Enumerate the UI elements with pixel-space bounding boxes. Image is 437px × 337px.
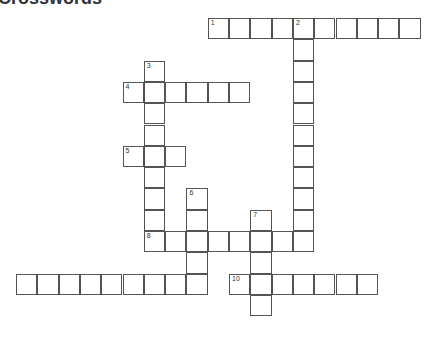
clue-number: 10 xyxy=(232,275,240,282)
crossword-cell[interactable]: 10 xyxy=(229,274,250,295)
crossword-cell[interactable] xyxy=(293,231,314,252)
crossword-cell[interactable] xyxy=(165,231,186,252)
crossword-cell[interactable] xyxy=(186,252,207,273)
crossword-cell[interactable] xyxy=(250,295,271,316)
crossword-cell[interactable] xyxy=(293,167,314,188)
clue-number: 2 xyxy=(296,19,300,26)
crossword-cell[interactable] xyxy=(144,146,165,167)
crossword-cell[interactable] xyxy=(144,210,165,231)
crossword-cell[interactable] xyxy=(144,188,165,209)
crossword-cell[interactable] xyxy=(293,103,314,124)
crossword-cell[interactable] xyxy=(229,82,250,103)
crossword-cell[interactable] xyxy=(59,274,80,295)
crossword-cell[interactable] xyxy=(357,18,378,39)
crossword-cell[interactable] xyxy=(293,39,314,60)
crossword-cell[interactable] xyxy=(186,82,207,103)
crossword-cell[interactable] xyxy=(293,188,314,209)
crossword-cell[interactable]: 5 xyxy=(123,146,144,167)
crossword-cell[interactable]: 8 xyxy=(144,231,165,252)
page-title: Crosswords xyxy=(0,0,102,9)
crossword-cell[interactable] xyxy=(229,18,250,39)
crossword-cell[interactable] xyxy=(208,231,229,252)
crossword-cell[interactable]: 1 xyxy=(208,18,229,39)
crossword-cell[interactable] xyxy=(272,18,293,39)
crossword-cell[interactable] xyxy=(186,231,207,252)
crossword-cell[interactable]: 3 xyxy=(144,61,165,82)
clue-number: 1 xyxy=(211,19,215,26)
crossword-cell[interactable] xyxy=(144,274,165,295)
crossword-cell[interactable]: 7 xyxy=(250,210,271,231)
clue-number: 6 xyxy=(189,189,193,196)
crossword-cell[interactable] xyxy=(293,61,314,82)
crossword-cell[interactable] xyxy=(336,274,357,295)
crossword-cell[interactable] xyxy=(144,82,165,103)
crossword-cell[interactable] xyxy=(186,274,207,295)
crossword-cell[interactable] xyxy=(144,167,165,188)
crossword-cell[interactable] xyxy=(250,252,271,273)
crossword-cell[interactable] xyxy=(123,274,144,295)
clue-number: 4 xyxy=(126,83,130,90)
crossword-cell[interactable]: 4 xyxy=(123,82,144,103)
crossword-cell[interactable] xyxy=(250,231,271,252)
crossword-cell[interactable] xyxy=(101,274,122,295)
crossword-cell[interactable] xyxy=(293,125,314,146)
crossword-cell[interactable] xyxy=(144,103,165,124)
crossword-cell[interactable] xyxy=(314,274,335,295)
crossword-cell[interactable] xyxy=(399,18,420,39)
crossword-cell[interactable] xyxy=(186,210,207,231)
crossword-cell[interactable] xyxy=(314,18,335,39)
crossword-cell[interactable] xyxy=(293,274,314,295)
crossword-cell[interactable] xyxy=(165,146,186,167)
crossword-cell[interactable] xyxy=(80,274,101,295)
crossword-cell[interactable] xyxy=(165,82,186,103)
clue-number: 3 xyxy=(147,62,151,69)
crossword-cell[interactable] xyxy=(165,274,186,295)
crossword-cell[interactable] xyxy=(293,210,314,231)
crossword-cell[interactable] xyxy=(272,231,293,252)
crossword-cell[interactable]: 6 xyxy=(186,188,207,209)
crossword-cell[interactable] xyxy=(208,82,229,103)
clue-number: 7 xyxy=(253,211,257,218)
crossword-cell[interactable] xyxy=(293,146,314,167)
crossword-cell[interactable]: 2 xyxy=(293,18,314,39)
crossword-cell[interactable] xyxy=(378,18,399,39)
crossword-cell[interactable] xyxy=(357,274,378,295)
crossword-cell[interactable] xyxy=(144,125,165,146)
crossword-cell[interactable] xyxy=(229,231,250,252)
crossword-cell[interactable] xyxy=(37,274,58,295)
crossword-cell[interactable] xyxy=(272,274,293,295)
crossword-cell[interactable] xyxy=(250,18,271,39)
crossword-cell[interactable] xyxy=(336,18,357,39)
crossword-cell[interactable] xyxy=(293,82,314,103)
clue-number: 5 xyxy=(126,147,130,154)
clue-number: 8 xyxy=(147,232,151,239)
crossword-cell[interactable] xyxy=(16,274,37,295)
crossword-cell[interactable] xyxy=(250,274,271,295)
